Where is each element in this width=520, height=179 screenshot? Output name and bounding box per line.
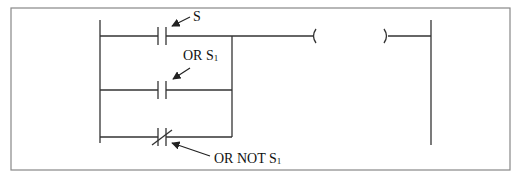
rung-3 — [100, 128, 232, 146]
rung-1 — [100, 27, 431, 45]
contact-s-icon — [158, 27, 166, 45]
label-or-not-s1: OR NOT S1 — [214, 152, 281, 166]
label-or-s1: OR S1 — [183, 49, 218, 63]
arrow-s-icon — [172, 17, 190, 26]
rung-2 — [100, 81, 232, 99]
output-coil-icon — [314, 29, 387, 43]
diagram-frame — [11, 8, 510, 170]
contact-s1-icon — [158, 81, 166, 99]
arrow-not-s1-icon — [172, 143, 210, 156]
label-s: S — [193, 10, 201, 24]
arrow-s1-icon — [173, 68, 190, 79]
